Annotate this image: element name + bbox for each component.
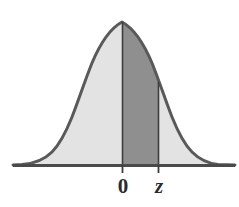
axis-label-zero: 0 [108, 176, 138, 197]
normal-distribution-figure: 0 z [0, 0, 239, 207]
axis-label-z: z [144, 176, 174, 197]
